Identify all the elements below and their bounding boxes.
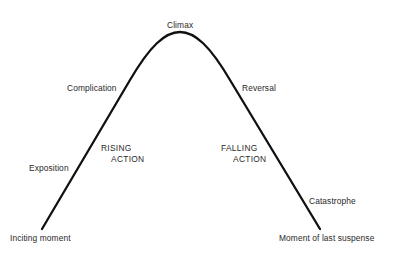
label-complication: Complication — [67, 83, 117, 93]
label-falling-action: FALLING ACTION — [221, 143, 266, 165]
label-rising-action: RISING ACTION — [101, 143, 144, 165]
label-reversal: Reversal — [242, 83, 276, 93]
falling-action-line-2: ACTION — [221, 154, 266, 165]
label-exposition: Exposition — [29, 163, 69, 173]
rising-action-line-2: ACTION — [101, 154, 144, 165]
label-catastrophe: Catastrophe — [309, 196, 356, 206]
label-climax: Climax — [167, 20, 193, 30]
label-inciting-moment: Inciting moment — [10, 233, 71, 243]
plot-arc-line — [42, 32, 320, 229]
falling-action-line-1: FALLING — [221, 143, 266, 154]
rising-action-line-1: RISING — [101, 143, 144, 154]
label-moment-of-last-suspense: Moment of last suspense — [279, 233, 374, 243]
freytag-pyramid-diagram: Climax Complication Reversal Exposition … — [0, 0, 399, 266]
plot-arc — [0, 0, 399, 266]
